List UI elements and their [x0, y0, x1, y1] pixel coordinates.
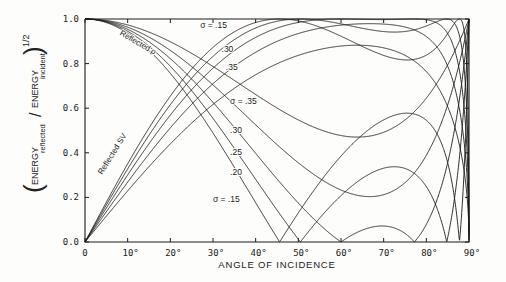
chart-annotation: σ = .15 — [213, 194, 240, 204]
x-tick-label: 90° — [464, 248, 480, 258]
chart-annotation: σ = .15 — [200, 20, 227, 30]
reflected-sv-curve-sigma-2 — [85, 19, 469, 242]
y-axis-label: ( ENERGY reflected / ENERGY incident ) 1… — [18, 34, 48, 193]
reflected-p-curve-sigma-35 — [85, 19, 469, 137]
y-tick-label: 1.0 — [63, 14, 79, 24]
chart-annotation: .25 — [230, 147, 242, 157]
reflected-sv-curve-sigma-25 — [85, 19, 469, 242]
plot-frame — [85, 19, 469, 242]
x-tick-label: 0 — [82, 248, 87, 258]
y-tick-label: 0.8 — [63, 59, 79, 69]
reflected-p-curve-sigma-25 — [85, 19, 469, 242]
y-label-sub-reflected: reflected — [38, 124, 47, 153]
x-tick-label: 30° — [208, 248, 224, 258]
reflected-p-curve-sigma-2 — [85, 19, 469, 242]
reflected-sv-curve-sigma-3 — [85, 24, 469, 242]
x-tick-label: 70° — [379, 248, 395, 258]
chart-annotation: .35 — [226, 62, 238, 72]
chart-annotation: Reflected ρ — [118, 29, 158, 57]
x-tick-label: 20° — [165, 248, 181, 258]
x-tick-label: 50° — [293, 248, 309, 258]
y-tick-label: 0.4 — [63, 148, 79, 158]
y-tick-label: 0.6 — [63, 103, 79, 113]
x-tick-label: 40° — [251, 248, 267, 258]
y-label-sub-incident: incident — [38, 52, 47, 79]
reflected-sv-curve-sigma-35 — [85, 45, 469, 242]
x-tick-label: 80° — [421, 248, 437, 258]
chart-annotation: .30 — [230, 125, 242, 135]
chart-curves — [85, 19, 469, 242]
reflection-coefficient-chart: 010°20°30°40°50°60°70°80°90°0.00.20.40.6… — [0, 0, 506, 282]
chart-annotation: .20 — [230, 167, 242, 177]
x-axis-label: ANGLE OF INCIDENCE — [218, 259, 335, 270]
chart-axes — [85, 19, 469, 242]
chart-annotation: .30 — [222, 44, 234, 54]
y-label-exponent: 1/2 — [21, 34, 31, 47]
reflected-p-curve-sigma-15 — [85, 19, 469, 242]
x-tick-label: 60° — [336, 248, 352, 258]
y-tick-label: 0.2 — [63, 192, 79, 202]
chart-annotation: σ = .35 — [230, 96, 257, 106]
y-label-slash: / — [27, 112, 44, 117]
y-tick-label: 0.0 — [63, 237, 79, 247]
x-tick-label: 10° — [123, 248, 139, 258]
reflected-sv-curve-sigma-15 — [85, 19, 469, 242]
